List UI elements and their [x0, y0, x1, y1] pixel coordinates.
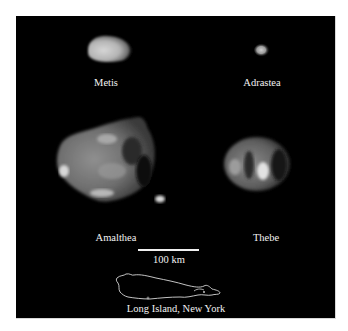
scale-bar-label: 100 km — [153, 254, 185, 266]
long-island-outline — [114, 272, 224, 302]
metis-label: Metis — [94, 77, 118, 89]
thebe-label: Thebe — [253, 232, 279, 244]
adrastea-label: Adrastea — [243, 77, 280, 89]
scale-bar — [138, 249, 199, 251]
metis-image — [82, 32, 138, 66]
image-panel: Metis Adrastea Amalthe — [16, 16, 336, 319]
adrastea-image — [252, 42, 272, 58]
amalthea-label: Amalthea — [96, 232, 137, 244]
amalthea-image — [52, 111, 174, 211]
long-island-label: Long Island, New York — [127, 303, 225, 315]
thebe-image — [221, 133, 295, 195]
